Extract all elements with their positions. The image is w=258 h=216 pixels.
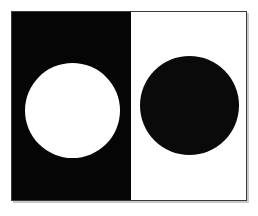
light-disc [25, 63, 120, 158]
dark-disc [140, 56, 239, 155]
left-panel-black [12, 12, 131, 200]
image-canvas [0, 0, 258, 216]
right-panel-white [131, 12, 247, 200]
figure-frame [11, 11, 247, 201]
